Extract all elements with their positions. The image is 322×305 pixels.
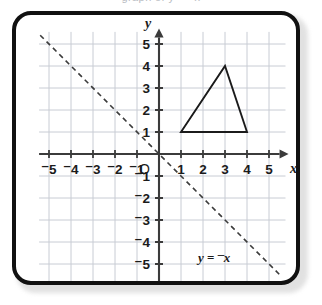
- svg-text:3: 3: [221, 162, 229, 177]
- figure-stage: graph of y = ⁻x –5–4–3–2–11234554321–1–2…: [0, 0, 322, 305]
- svg-text:5: 5: [265, 162, 273, 177]
- svg-text:y: y: [143, 16, 152, 31]
- cutoff-caption: graph of y = ⁻x: [0, 0, 322, 3]
- equation-x: x: [224, 250, 231, 265]
- coordinate-plane-svg: –5–4–3–2–11234554321–1–2–3–4–5Oxy: [16, 15, 296, 281]
- equation-label: y = –x: [198, 246, 230, 266]
- svg-text:x: x: [289, 161, 296, 176]
- equation-equals: =: [204, 250, 218, 265]
- svg-text:4: 4: [142, 59, 150, 74]
- svg-text:1: 1: [142, 125, 150, 140]
- coordinate-plane-figure: –5–4–3–2–11234554321–1–2–3–4–5Oxy y = –x: [12, 11, 300, 285]
- svg-text:O: O: [139, 161, 150, 177]
- svg-text:2: 2: [142, 103, 150, 118]
- svg-text:3: 3: [142, 81, 150, 96]
- svg-text:4: 4: [243, 162, 251, 177]
- svg-text:2: 2: [199, 162, 207, 177]
- svg-text:5: 5: [142, 37, 150, 52]
- svg-text:1: 1: [177, 162, 185, 177]
